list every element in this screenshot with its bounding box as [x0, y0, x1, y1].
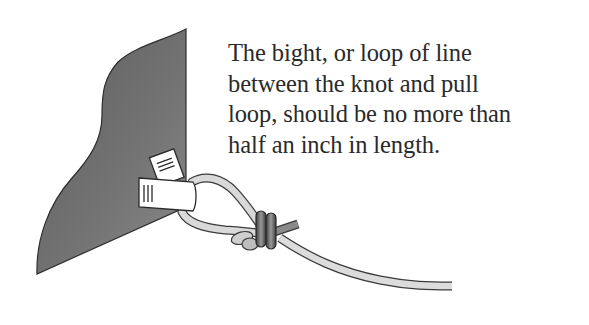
running-end [280, 238, 452, 286]
caption-line: The bight, or loop of line [228, 38, 588, 69]
caption-line: half an inch in length. [228, 130, 588, 161]
caption-line: loop, should be no more than [228, 99, 588, 130]
pull-loop-tab [139, 178, 196, 211]
caption-text: The bight, or loop of line between the k… [228, 38, 588, 160]
knot-wraps [256, 211, 276, 249]
caption-line: between the knot and pull [228, 69, 588, 100]
container-flap [37, 29, 186, 274]
